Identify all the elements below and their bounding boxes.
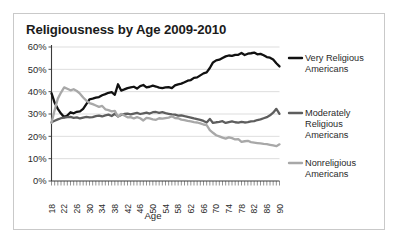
legend-label-1: Moderately: [305, 108, 351, 118]
x-axis-tick-label: 70: [211, 204, 221, 214]
x-axis-tick-label: 62: [186, 204, 196, 214]
x-axis-tickmarks-group: [52, 181, 280, 186]
x-axis-tick-label: 26: [72, 204, 82, 214]
series-line-1: [52, 109, 280, 123]
x-axis-tick-label: 54: [161, 204, 171, 214]
legend-label-1: Americans: [305, 130, 349, 140]
figure-container: Religiousness by Age 2009-2010 0%10%20%3…: [0, 0, 400, 247]
y-axis-tick-label: 50%: [28, 64, 47, 75]
x-axis-tick-label: 18: [47, 204, 57, 214]
x-axis-tick-label: 34: [97, 204, 107, 214]
x-axis-tick-label: 78: [237, 204, 247, 214]
x-axis-tick-label: 58: [173, 204, 183, 214]
x-axis-tick-label: 42: [123, 204, 133, 214]
legend-label-0: Americans: [305, 64, 349, 74]
plot-wrapper: 0%10%20%30%40%50%60% 1822263034384246505…: [0, 0, 400, 247]
y-axis-tick-label: 10%: [28, 153, 47, 164]
series-line-0: [52, 53, 280, 118]
x-axis-tick-label: 90: [275, 204, 285, 214]
legend-label-2: Nonreligious: [305, 158, 356, 168]
data-series-group: [52, 53, 280, 147]
x-axis-tick-label: 66: [199, 204, 209, 214]
x-axis-tick-label: 22: [59, 204, 69, 214]
x-axis-tick-label: 86: [262, 204, 272, 214]
x-axis-tick-label: 38: [110, 204, 120, 214]
x-axis-tick-label: 30: [85, 204, 95, 214]
y-axis-tick-label: 30%: [28, 108, 47, 119]
y-axis-labels-group: 0%10%20%30%40%50%60%: [28, 41, 52, 186]
legend-label-0: Very Religious: [305, 53, 364, 63]
legend-label-1: Religious: [305, 119, 343, 129]
x-axis-tick-label: 74: [224, 204, 234, 214]
y-axis-tick-label: 0%: [33, 175, 47, 186]
legend-label-2: Americans: [305, 169, 349, 179]
y-axis-tick-label: 40%: [28, 86, 47, 97]
x-axis-labels-group: 18222630343842465054586266707478828690: [47, 204, 285, 214]
x-axis-tick-label: 82: [249, 204, 259, 214]
y-axis-tick-label: 60%: [28, 41, 47, 52]
y-axis-tick-label: 20%: [28, 131, 47, 142]
line-chart-svg: 0%10%20%30%40%50%60% 1822263034384246505…: [0, 0, 400, 247]
legend-group: Very ReligiousAmericansModeratelyReligio…: [289, 53, 364, 179]
x-axis-title: Age: [144, 210, 161, 221]
